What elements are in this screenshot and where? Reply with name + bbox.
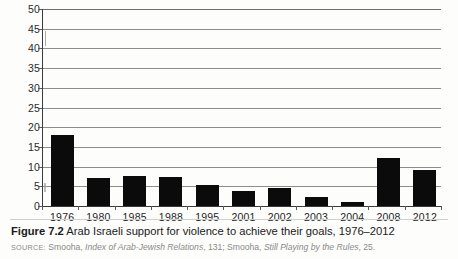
x-tickmark-5 — [223, 206, 224, 210]
source-title-two: Still Playing by the Rules — [264, 242, 359, 252]
figure-source: SOURCE: Smooha, Index of Arab-Jewish Rel… — [11, 242, 455, 253]
bar-1980 — [87, 178, 110, 206]
x-tick-label-2003: 2003 — [298, 211, 334, 223]
y-tick-label-30: 30 — [14, 83, 40, 93]
bar-2001 — [232, 191, 255, 206]
source-end: , 25. — [358, 242, 375, 252]
x-tick-label-1980: 1980 — [80, 211, 116, 223]
bar-2002 — [268, 188, 291, 206]
source-label: SOURCE: — [11, 243, 46, 252]
x-tickmark-9 — [368, 206, 369, 210]
bar-1976 — [51, 135, 74, 206]
y-tick-label-25: 25 — [14, 103, 40, 113]
bar-2012 — [413, 170, 436, 206]
source-middle: , 131; Smooha, — [203, 242, 261, 252]
scan-artifact-icon — [45, 31, 46, 46]
source-title-one: Index of Arab-Jewish Relations — [85, 242, 203, 252]
x-tick-label-1995: 1995 — [189, 211, 225, 223]
bar-2003 — [305, 197, 328, 206]
x-tick-label-1988: 1988 — [153, 211, 189, 223]
x-tickmark-8 — [332, 206, 333, 210]
y-tick-label-20: 20 — [14, 122, 40, 132]
x-tickmark-2 — [115, 206, 116, 210]
figure-container: 50454035302520151050 1976198019851988199… — [0, 0, 458, 259]
x-tick-label-1976: 1976 — [44, 211, 80, 223]
plot-area — [42, 9, 441, 206]
y-tick-label-0: 0 — [14, 201, 40, 211]
x-tick-label-2008: 2008 — [370, 211, 406, 223]
y-tick-label-10: 10 — [14, 162, 40, 172]
x-tickmark-10 — [405, 206, 406, 210]
x-tickmark-6 — [260, 206, 261, 210]
x-tickmark-1 — [78, 206, 79, 210]
x-tickmark-3 — [151, 206, 152, 210]
bar-2008 — [377, 158, 400, 206]
y-axis-labels: 50454035302520151050 — [12, 0, 40, 220]
y-tick-label-40: 40 — [14, 43, 40, 53]
x-tickmark-4 — [187, 206, 188, 210]
x-tick-label-2012: 2012 — [407, 211, 443, 223]
x-tickmark-0 — [42, 206, 43, 210]
figure-number: Figure 7.2 — [11, 225, 64, 237]
x-tick-label-2001: 2001 — [225, 211, 261, 223]
scan-artifact-lower-icon — [44, 183, 46, 192]
x-tick-label-2004: 2004 — [334, 211, 370, 223]
figure-caption: Figure 7.2 Arab Israeli support for viol… — [11, 224, 451, 238]
y-tick-label-45: 45 — [14, 24, 40, 34]
bar-1995 — [196, 185, 219, 206]
bar-chart: 50454035302520151050 1976198019851988199… — [0, 0, 458, 220]
y-tick-label-35: 35 — [14, 63, 40, 73]
y-tick-label-15: 15 — [14, 142, 40, 152]
figure-caption-text: Arab Israeli support for violence to ach… — [66, 225, 394, 237]
bar-1985 — [123, 176, 146, 206]
bar-1988 — [159, 177, 182, 206]
x-tickmark-end — [441, 206, 442, 210]
y-tick-label-5: 5 — [14, 181, 40, 191]
x-tick-label-2002: 2002 — [262, 211, 298, 223]
y-tick-label-50: 50 — [14, 4, 40, 14]
x-tick-label-1985: 1985 — [117, 211, 153, 223]
source-author-one: Smooha, — [48, 242, 82, 252]
caption-divider — [10, 219, 448, 220]
x-tickmark-7 — [296, 206, 297, 210]
bar-series — [42, 9, 441, 206]
